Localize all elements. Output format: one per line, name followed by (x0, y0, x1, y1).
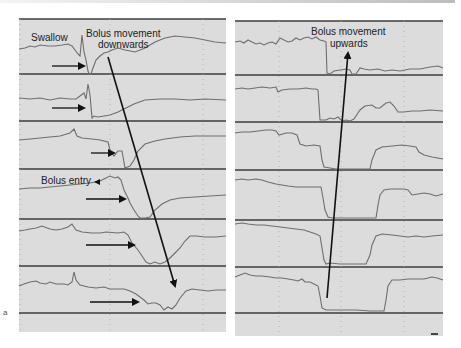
scale-mark (431, 333, 438, 335)
bolus-entry-label: Bolus entry (41, 176, 91, 186)
swallow-label: Swallow (31, 33, 68, 43)
bolus-up-label-line1: Bolus movement (311, 27, 385, 37)
bolus-down-label-line1: Bolus movement (86, 29, 160, 39)
right-panel (235, 21, 443, 336)
impedance-tracing-figure (0, 0, 461, 348)
bolus-down-label-line2: downwards (98, 40, 149, 50)
bolus-up-label-line2: upwards (330, 39, 368, 49)
panel-mark: a (3, 308, 7, 317)
